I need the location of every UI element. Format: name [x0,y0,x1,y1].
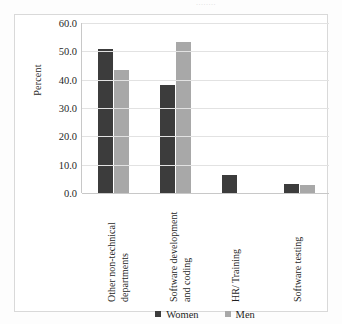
bar-women [160,85,175,193]
y-tick-label: 50.0 [37,46,77,57]
chart-page: ........ Percent 0.010.020.030.040.050.0… [0,0,342,324]
y-axis-tick-labels: 0.010.020.030.040.050.060.0 [37,17,77,193]
legend-item-women[interactable]: Women [155,309,198,320]
gridline [82,23,329,24]
axis-baseline [82,193,329,194]
legend-swatch-icon [225,311,231,317]
y-tick-label: 20.0 [37,131,77,142]
y-tick-label: 10.0 [37,159,77,170]
legend-swatch-icon [155,311,161,317]
gridline [82,108,329,109]
x-category-label: HR/ Training [229,196,275,302]
y-tick-label: 0.0 [37,188,77,199]
y-tick-label: 60.0 [37,18,77,29]
x-category-label: Other non-technical departments [105,196,151,302]
bar-men [176,42,191,193]
bar-men [114,70,129,193]
gridline [82,51,329,52]
bar-women [284,184,299,193]
gridline [82,165,329,166]
x-axis-category-labels: Other non-technical departmentsSoftware … [81,198,329,306]
bar-men [300,185,315,193]
gridline [82,136,329,137]
legend-item-men[interactable]: Men [225,309,255,320]
y-tick-label: 30.0 [37,103,77,114]
y-tick-label: 40.0 [37,74,77,85]
bar-women [222,175,237,193]
legend-label: Women [166,309,198,320]
x-category-label: Software development and coding [167,196,213,302]
legend-label: Men [236,309,255,320]
cut-off-text-fragment: ........ [196,0,242,6]
chart-legend: WomenMen [81,306,329,322]
bar-women [98,49,113,194]
plot-area [81,23,329,193]
x-category-label: Software testing [291,196,337,302]
chart-frame: Percent 0.010.020.030.040.050.060.0 Othe… [14,14,328,312]
gridline [82,80,329,81]
